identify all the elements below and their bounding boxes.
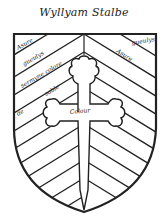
tincture-label: gueulys [131,35,156,47]
cross-botonny-fitchy [43,56,125,210]
tincture-label: sable [43,83,61,97]
heraldic-shield: Asure gueulys sermyne colore sable de Co… [0,0,168,224]
tincture-label: de [15,107,25,117]
